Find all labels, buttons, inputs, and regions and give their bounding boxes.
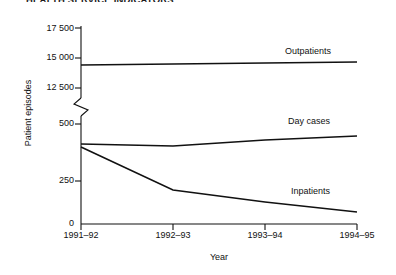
series-line-day-cases <box>81 136 357 146</box>
series-line-inpatients <box>81 147 357 212</box>
series-line-outpatients <box>81 62 357 65</box>
plot-area <box>0 0 396 275</box>
axis-break-icon <box>74 98 88 116</box>
chart-figure: HEALTH SERVICE INDICATORS Patient episod… <box>0 0 396 275</box>
